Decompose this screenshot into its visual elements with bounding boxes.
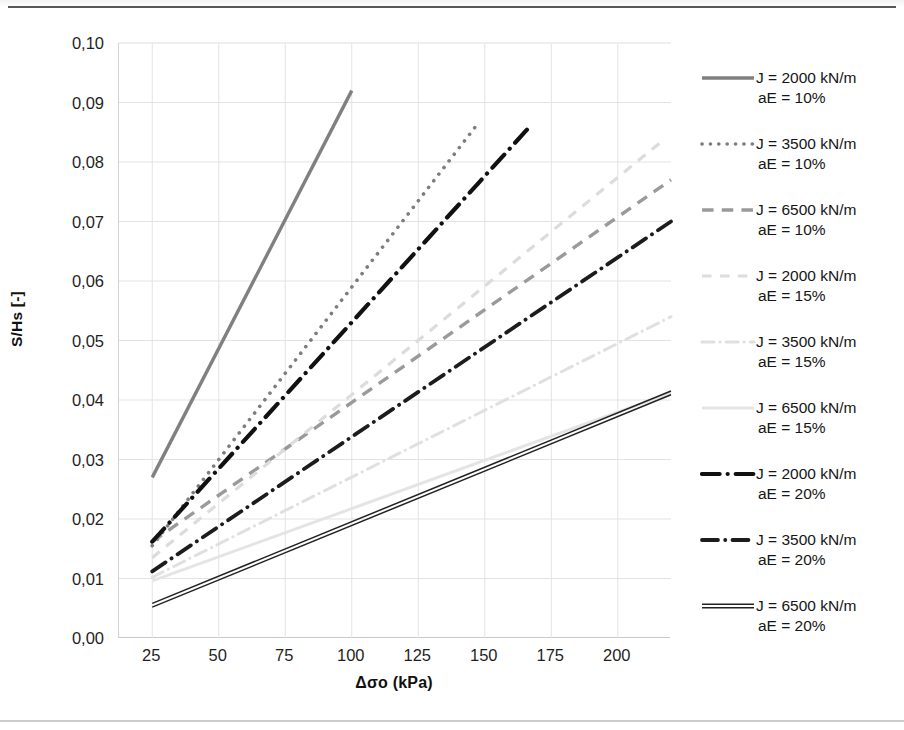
legend-label-line1: J = 6500 kN/m [756, 399, 856, 416]
legend-item-label: J = 2000 kN/maE = 10% [756, 68, 856, 107]
scan-rule-top [8, 6, 896, 8]
x-tick-label: 125 [404, 646, 432, 665]
x-tick-label: 175 [537, 646, 565, 665]
dash-dot-black-line-icon [700, 465, 756, 483]
legend-label-line2: aE = 15% [756, 352, 856, 372]
legend-label-line2: aE = 20% [756, 550, 856, 570]
legend-label-line2: aE = 10% [756, 220, 856, 240]
x-tick-label: 25 [142, 646, 160, 665]
legend-item[interactable]: J = 6500 kN/maE = 15% [700, 398, 904, 437]
legend-label-line2: aE = 15% [756, 418, 856, 438]
x-tick-label: 150 [470, 646, 498, 665]
legend-item-label: J = 3500 kN/maE = 20% [756, 530, 856, 569]
legend-item-label: J = 6500 kN/maE = 15% [756, 398, 856, 437]
dash-dot-light-line-icon [700, 333, 756, 351]
legend-label-line2: aE = 20% [756, 616, 856, 636]
solid-gray-line-icon [700, 69, 756, 87]
legend-label-line1: J = 3500 kN/m [756, 333, 856, 350]
series-line [152, 393, 671, 581]
legend-item[interactable]: J = 6500 kN/maE = 10% [700, 200, 904, 239]
series-line [152, 129, 527, 541]
legend-label-line1: J = 3500 kN/m [756, 135, 856, 152]
x-tick-label: 75 [275, 646, 293, 665]
legend-item[interactable]: J = 6500 kN/maE = 20% [700, 596, 904, 635]
series-line [152, 395, 671, 607]
chart-legend: J = 2000 kN/maE = 10%J = 3500 kN/maE = 1… [700, 43, 904, 643]
x-tick-label: 200 [603, 646, 631, 665]
legend-item-label: J = 2000 kN/maE = 20% [756, 464, 856, 503]
legend-label-line2: aE = 10% [756, 154, 856, 174]
series-line [152, 122, 479, 546]
legend-label-line1: J = 6500 kN/m [756, 201, 856, 218]
legend-label-line1: J = 6500 kN/m [756, 597, 856, 614]
x-axis-title: Δσo (kPa) [118, 674, 670, 692]
legend-item[interactable]: J = 3500 kN/maE = 15% [700, 332, 904, 371]
dotted-gray-line-icon [700, 135, 756, 153]
legend-label-line2: aE = 20% [756, 484, 856, 504]
dashed-gray-line-icon [700, 201, 756, 219]
x-tick-label: 100 [337, 646, 365, 665]
legend-item-label: J = 2000 kN/maE = 15% [756, 266, 856, 305]
legend-item[interactable]: J = 3500 kN/maE = 20% [700, 530, 904, 569]
plot-region [118, 43, 670, 638]
legend-label-line1: J = 3500 kN/m [756, 531, 856, 548]
series-lines-svg [119, 43, 671, 638]
series-line [152, 391, 671, 603]
solid-light-line-icon [700, 399, 756, 417]
legend-label-line1: J = 2000 kN/m [756, 69, 856, 86]
dashed-light-line-icon [700, 267, 756, 285]
dash-dot-dark-line-icon [700, 531, 756, 549]
legend-item[interactable]: J = 3500 kN/maE = 10% [700, 134, 904, 173]
series-line [152, 138, 665, 557]
legend-item-label: J = 6500 kN/maE = 20% [756, 596, 856, 635]
plot-area-wrapper: 0,100,090,080,070,060,050,040,030,020,01… [0, 10, 700, 700]
legend-item[interactable]: J = 2000 kN/maE = 20% [700, 464, 904, 503]
y-axis-title: S/Hs [-] [8, 244, 26, 394]
legend-label-line1: J = 2000 kN/m [756, 267, 856, 284]
chart-figure: 0,100,090,080,070,060,050,040,030,020,01… [0, 10, 904, 700]
legend-label-line2: aE = 15% [756, 286, 856, 306]
legend-label-line2: aE = 10% [756, 88, 856, 108]
legend-item[interactable]: J = 2000 kN/maE = 10% [700, 68, 904, 107]
legend-item-label: J = 3500 kN/maE = 15% [756, 332, 856, 371]
x-tick-label: 50 [209, 646, 227, 665]
legend-item-label: J = 3500 kN/maE = 10% [756, 134, 856, 173]
figure-page: 0,100,090,080,070,060,050,040,030,020,01… [0, 0, 904, 730]
legend-item[interactable]: J = 2000 kN/maE = 15% [700, 266, 904, 305]
legend-item-label: J = 6500 kN/maE = 10% [756, 200, 856, 239]
legend-label-line1: J = 2000 kN/m [756, 465, 856, 482]
scan-rule-bottom [0, 720, 904, 722]
solid-black-line-icon [700, 597, 756, 615]
